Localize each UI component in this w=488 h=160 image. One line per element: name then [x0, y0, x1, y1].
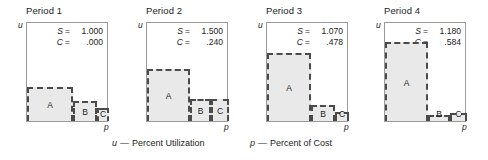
caption-p: p—Percent of Cost	[250, 138, 332, 148]
panel-stats: S=1.500C=.240	[177, 26, 223, 48]
region-c: C	[97, 108, 109, 121]
region-c: C	[335, 112, 349, 121]
panel-stats: S=1.070C=.478	[297, 26, 343, 48]
stat-c-row: C=.240	[177, 37, 223, 48]
region-label: C	[213, 106, 227, 116]
caption-dash: —	[120, 138, 129, 148]
stat-s-equals: =	[423, 26, 428, 36]
caption-u: u—Percent Utilization	[112, 138, 205, 148]
x-axis-label-p: p	[462, 122, 467, 132]
stat-s-equals: =	[305, 26, 310, 36]
region-label: B	[75, 107, 95, 117]
panel-title: Period 4	[384, 5, 420, 16]
stat-s-symbol: S	[177, 26, 183, 36]
panel-title: Period 2	[146, 5, 182, 16]
region-b: B	[428, 115, 450, 121]
region-label: C	[337, 109, 347, 119]
stat-c-equals: =	[65, 37, 70, 47]
x-axis-label-p: p	[104, 122, 109, 132]
plot-frame: S=1.180C=.584ABC	[384, 22, 466, 122]
plot-frame: S=1.500C=.240ABC	[146, 22, 228, 122]
panel-title: Period 3	[266, 5, 302, 16]
region-label: A	[149, 91, 188, 101]
stat-s-value: 1.180	[430, 26, 461, 37]
stat-c-equals: =	[185, 37, 190, 47]
region-b: B	[73, 101, 97, 121]
panel-title: Period 1	[26, 5, 62, 16]
period-panel-2: Period 2upS=1.500C=.240ABC	[138, 0, 258, 135]
region-label: C	[452, 109, 465, 119]
stat-s-value: 1.500	[192, 26, 223, 37]
caption-symbol: u	[112, 138, 117, 148]
region-a: A	[27, 87, 73, 121]
stat-s-symbol: S	[415, 26, 421, 36]
stat-c-equals: =	[305, 37, 310, 47]
stat-c-value: .000	[72, 37, 103, 48]
stat-s-symbol: S	[297, 26, 303, 36]
y-axis-label-u: u	[376, 20, 381, 30]
stat-s-value: 1.070	[312, 26, 343, 37]
period-panel-3: Period 3upS=1.070C=.478ABC	[258, 0, 378, 135]
stat-s-row: S=1.000	[57, 26, 103, 37]
region-label: A	[29, 100, 71, 110]
y-axis-label-u: u	[138, 20, 143, 30]
stat-c-symbol: C	[297, 37, 303, 47]
caption-text: Percent Utilization	[132, 138, 205, 148]
period-panel-4: Period 4upS=1.180C=.584ABC	[376, 0, 488, 135]
caption-symbol: p	[250, 138, 255, 148]
stat-s-row: S=1.070	[297, 26, 343, 37]
region-label: B	[430, 109, 448, 119]
stat-s-symbol: S	[57, 26, 63, 36]
caption-text: Percent of Cost	[270, 138, 332, 148]
stat-c-value: .478	[312, 37, 343, 48]
stat-c-value: .240	[192, 37, 223, 48]
stat-c-value: .584	[430, 37, 461, 48]
y-axis-label-u: u	[18, 20, 23, 30]
four-period-utilization-figure: Period 1upS=1.000C=.000ABCPeriod 2upS=1.…	[0, 0, 488, 160]
x-axis-label-p: p	[224, 122, 229, 132]
region-b: B	[311, 105, 335, 121]
region-b: B	[190, 99, 211, 121]
y-axis-label-u: u	[258, 20, 263, 30]
caption-dash: —	[258, 138, 267, 148]
stat-c-row: C=.478	[297, 37, 343, 48]
region-a: A	[385, 42, 428, 121]
stat-c-row: C=.000	[57, 37, 103, 48]
region-a: A	[147, 69, 190, 121]
plot-frame: S=1.070C=.478ABC	[266, 22, 348, 122]
stat-s-row: S=1.500	[177, 26, 223, 37]
stat-s-equals: =	[65, 26, 70, 36]
region-label: C	[99, 109, 107, 119]
stat-s-equals: =	[185, 26, 190, 36]
region-label: A	[269, 83, 309, 93]
stat-c-symbol: C	[177, 37, 183, 47]
stat-c-symbol: C	[57, 37, 63, 47]
stat-s-value: 1.000	[72, 26, 103, 37]
region-label: B	[192, 106, 209, 116]
stat-s-row: S=1.180	[415, 26, 461, 37]
region-label: A	[387, 78, 426, 88]
region-c: C	[211, 99, 229, 121]
region-label: B	[313, 109, 333, 119]
panel-stats: S=1.000C=.000	[57, 26, 103, 48]
plot-frame: S=1.000C=.000ABC	[26, 22, 108, 122]
region-c: C	[450, 113, 467, 121]
x-axis-label-p: p	[344, 122, 349, 132]
region-a: A	[267, 53, 311, 121]
period-panel-1: Period 1upS=1.000C=.000ABC	[18, 0, 138, 135]
